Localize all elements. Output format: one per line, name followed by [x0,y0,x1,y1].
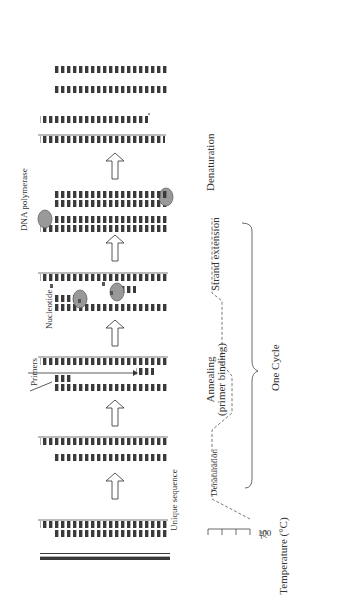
tick-75: 75 [260,530,269,539]
stage-annealing-sub: (primer binding) [216,343,227,416]
unique-sequence-label: Unique sequence [170,469,179,531]
dna-extension-start [38,273,168,311]
dna-annealing [28,357,168,391]
stage-denaturation-1: Denaturation [210,449,219,496]
primers-label: Primers [30,358,39,386]
nucleotide-label: Nucleotide [45,290,54,330]
cycle-label: One Cycle [270,344,281,391]
dna-products [38,66,167,143]
stage-annealing: Annealing(primer binding) [205,343,227,416]
dna-initial [38,520,168,537]
stage-denaturation-2: Denaturation [205,134,216,191]
dna-extension-complete [38,188,173,232]
stage-denaturation-2-label: Denaturation [205,134,216,191]
dna-denatured [38,437,168,461]
polymerase-label: DNA polymerase [20,168,29,231]
stage-extension: Strand extension [210,217,221,291]
axis-label: Temperature (°C) [278,511,289,599]
